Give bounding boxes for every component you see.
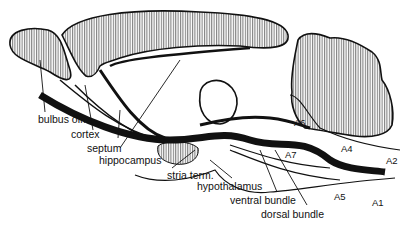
cerebellum bbox=[292, 34, 393, 137]
label-a4: A4 bbox=[341, 144, 353, 154]
label-cortex: cortex bbox=[71, 129, 100, 140]
label-a1: A1 bbox=[372, 198, 384, 208]
label-a7: A7 bbox=[285, 150, 297, 160]
label-dorsal-bundle: dorsal bundle bbox=[261, 209, 324, 220]
olfactory-bulb bbox=[10, 29, 71, 80]
label-a2: A2 bbox=[386, 156, 398, 166]
label-a6: A6 bbox=[294, 118, 306, 128]
label-a5: A5 bbox=[334, 192, 346, 202]
label-ventral-bundle: ventral bundle bbox=[230, 195, 296, 206]
label-hippocampus: hippocampus bbox=[99, 155, 161, 166]
label-stria-term: stria term. bbox=[167, 170, 214, 181]
label-septum: septum bbox=[87, 143, 121, 154]
label-bulbus-olf: bulbus olf. bbox=[38, 114, 86, 125]
hypothalamus-region bbox=[158, 142, 199, 165]
label-hypothalamus: hypothalamus bbox=[197, 181, 262, 192]
